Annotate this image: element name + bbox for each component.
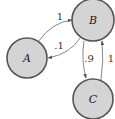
node-b: B (72, 0, 114, 41)
edge-b-to-a-arrow-icon (48, 38, 80, 58)
edge-b-to-a-label: .1 (54, 40, 64, 51)
edge-b-to-c: .9 (83, 41, 94, 78)
edge-c-to-b-label: 1 (108, 53, 114, 64)
edge-b-to-a: .1 (48, 38, 80, 58)
node-c-label: C (89, 93, 98, 106)
edge-c-to-b-arrow-icon (101, 41, 103, 80)
edge-b-to-c-label: .9 (84, 53, 94, 64)
edge-a-to-b: 1 (38, 11, 72, 43)
node-b-label: B (88, 14, 97, 27)
edge-c-to-b: 1 (101, 41, 114, 80)
node-c: C (73, 79, 113, 119)
state-diagram: 1 .1 .9 1 A B C (0, 0, 115, 119)
node-a: A (7, 38, 47, 78)
edge-a-to-b-label: 1 (57, 11, 63, 22)
node-a-label: A (22, 52, 31, 65)
